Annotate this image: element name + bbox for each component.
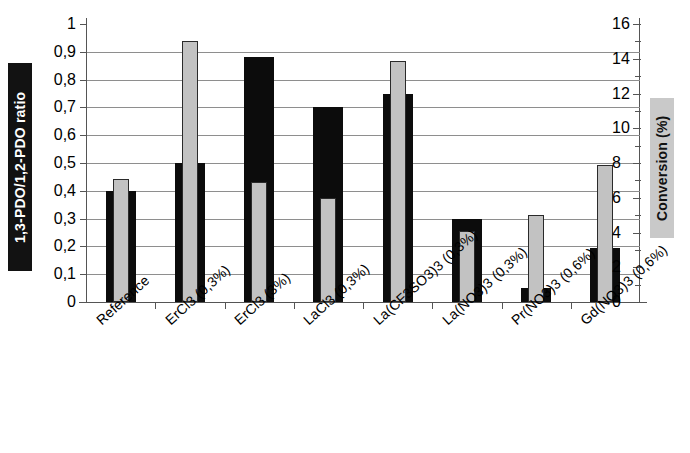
- y-axis-right-title: Conversion (%): [650, 98, 674, 238]
- y-axis-right-tick: [635, 111, 641, 112]
- y-axis-left-title: 1,3-PDO/1,2-PDO ratio: [8, 63, 32, 271]
- chart-root: 1,3-PDO/1,2-PDO ratio Conversion (%) 00,…: [0, 0, 690, 453]
- y-axis-left-tick-label: 0: [30, 293, 76, 311]
- y-axis-left-tick: [80, 219, 87, 220]
- y-axis-left-tick: [80, 135, 87, 136]
- y-axis-left-line: [86, 18, 87, 302]
- x-axis-tick: [432, 302, 433, 309]
- gridline: [86, 52, 640, 53]
- y-axis-right-tick: [635, 215, 641, 216]
- y-axis-right-tick-label: 10: [612, 119, 652, 137]
- y-axis-left-tick-label: 0,6: [30, 126, 76, 144]
- bar-group: [383, 24, 413, 302]
- y-axis-left-tick-label: 0,4: [30, 182, 76, 200]
- y-axis-left-tick: [80, 24, 87, 25]
- plot-area: [86, 24, 640, 302]
- bar-conversion: [390, 61, 406, 303]
- y-axis-left-tick: [80, 302, 87, 303]
- gridline: [86, 135, 640, 136]
- bar-conversion: [182, 41, 198, 302]
- y-axis-left-tick: [80, 163, 87, 164]
- y-axis-right-tick-label: 16: [612, 15, 652, 33]
- x-axis-tick: [225, 302, 226, 309]
- y-axis-right-tick-label: 14: [612, 50, 652, 68]
- x-axis-tick: [502, 302, 503, 309]
- y-axis-left-tick-label: 0,8: [30, 71, 76, 89]
- y-axis-right-tick-label: 4: [612, 224, 652, 242]
- y-axis-left-tick-label: 0,2: [30, 237, 76, 255]
- y-axis-right-tick: [635, 250, 641, 251]
- bar-conversion: [113, 179, 129, 302]
- y-axis-right-tick: [635, 41, 641, 42]
- y-axis-left-tick: [80, 246, 87, 247]
- y-axis-right-tick-label: 12: [612, 85, 652, 103]
- y-axis-right-tick: [635, 180, 641, 181]
- bar-group: [244, 24, 274, 302]
- y-axis-left-tick: [80, 191, 87, 192]
- y-axis-right-tick: [635, 285, 641, 286]
- bar-group: [521, 24, 551, 302]
- x-axis-tick: [155, 302, 156, 309]
- y-axis-left-tick-label: 0,1: [30, 265, 76, 283]
- bar-group: [313, 24, 343, 302]
- y-axis-left-tick: [80, 107, 87, 108]
- bar-conversion: [597, 165, 613, 302]
- gridline: [86, 191, 640, 192]
- y-axis-left-tick-label: 1: [30, 15, 76, 33]
- y-axis-right-tick: [635, 76, 641, 77]
- x-axis-tick: [363, 302, 364, 309]
- y-axis-left-tick-label: 0,3: [30, 210, 76, 228]
- y-axis-left-tick-label: 0,7: [30, 98, 76, 116]
- gridline: [86, 163, 640, 164]
- gridline: [86, 246, 640, 247]
- y-axis-left-tick-label: 0,5: [30, 154, 76, 172]
- x-axis-tick: [294, 302, 295, 309]
- y-axis-left-tick: [80, 274, 87, 275]
- y-axis-right-tick-label: 8: [612, 154, 652, 172]
- x-axis-tick: [571, 302, 572, 309]
- y-axis-left-tick-label: 0,9: [30, 43, 76, 61]
- gridline: [86, 107, 640, 108]
- y-axis-left-tick: [80, 52, 87, 53]
- gridline: [86, 219, 640, 220]
- gridline: [86, 80, 640, 81]
- bar-group: [452, 24, 482, 302]
- bar-group: [106, 24, 136, 302]
- y-axis-right-tick: [635, 146, 641, 147]
- bar-group: [175, 24, 205, 302]
- y-axis-left-tick: [80, 80, 87, 81]
- y-axis-right-tick-label: 6: [612, 189, 652, 207]
